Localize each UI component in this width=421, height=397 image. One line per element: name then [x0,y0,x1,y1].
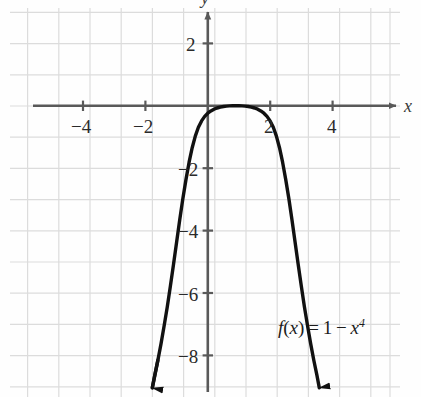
y-axis-label: y [201,0,209,7]
x-axis-label: x [404,97,412,115]
y-tick-label-neg4: −4 [178,222,198,241]
graph-figure: −4 −2 2 4 2 −2 −4 −6 −8 x y f(x) = 1 − x… [0,0,421,397]
y-tick-label-2: 2 [186,35,196,54]
x-tick-label-2: 2 [264,117,274,136]
y-tick-label-neg8: −8 [178,347,198,366]
y-tick-label-neg6: −6 [178,285,198,304]
x-tick-label-neg4: −4 [71,117,91,136]
y-tick-label-neg2: −2 [178,160,198,179]
x-tick-label-4: 4 [327,117,337,136]
x-tick-label-neg2: −2 [133,117,153,136]
function-equation-label: f(x) = 1 − x4 [278,318,365,337]
